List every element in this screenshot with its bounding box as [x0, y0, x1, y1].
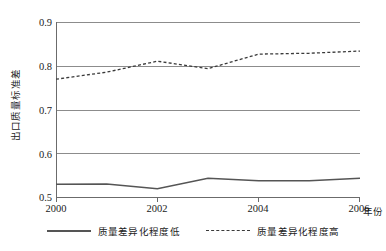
legend-solid-line-icon: [47, 227, 91, 235]
y-tick-label: 0.8: [39, 61, 52, 72]
chart-legend: 质量差异化程度低 质量差异化程度高: [0, 224, 386, 238]
x-tick-mark: [359, 198, 360, 202]
legend-label-low: 质量差异化程度低: [98, 224, 180, 238]
data-lines: [56, 22, 360, 198]
y-tick-label: 0.7: [39, 105, 52, 116]
x-tick-mark: [56, 198, 57, 202]
legend-dashed-line-icon: [206, 227, 250, 235]
legend-item-low: 质量差异化程度低: [47, 224, 180, 238]
series-line-low: [56, 178, 360, 189]
x-tick-mark: [258, 198, 259, 202]
x-axis-title: 年份: [363, 204, 383, 218]
x-tick-label: 2004: [248, 203, 269, 214]
x-tick-label: 2000: [46, 203, 67, 214]
x-tick-label: 2002: [147, 203, 168, 214]
x-tick-mark: [157, 198, 158, 202]
y-tick-label: 0.6: [39, 149, 52, 160]
chart-figure: 出口质量标准差 0.9 0.8 0.7 0.6 0.5 2000 2002 20…: [0, 0, 386, 251]
series-line-high: [56, 51, 360, 79]
legend-label-high: 质量差异化程度高: [257, 224, 339, 238]
y-axis-title-text: 出口质量标准差: [8, 69, 22, 142]
y-tick-label: 0.9: [39, 17, 52, 28]
y-tick-label: 0.5: [39, 192, 52, 203]
legend-item-high: 质量差异化程度高: [206, 224, 339, 238]
